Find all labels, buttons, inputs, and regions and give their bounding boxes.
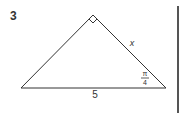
- column-divider: [177, 6, 179, 113]
- angle-denominator: 4: [143, 79, 147, 86]
- side-label: x: [129, 38, 135, 48]
- base-label: 5: [92, 89, 98, 100]
- triangle: [21, 15, 166, 88]
- right-angle-marker: [89, 19, 97, 23]
- angle-numerator: π: [143, 70, 148, 77]
- triangle-figure: 5 x π 4: [0, 0, 184, 113]
